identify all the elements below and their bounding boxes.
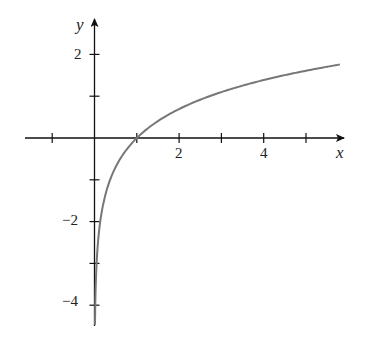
y-tick-label-2: 2 [74, 46, 82, 62]
x-axis-label: x [335, 143, 344, 162]
plot-area: x y 2 4 2 −2 −4 [0, 0, 373, 346]
y-tick-label-m4: −4 [62, 293, 78, 309]
y-tick-label-m2: −2 [62, 212, 78, 228]
x-tick-label-4: 4 [260, 145, 268, 161]
x-tick-label-2: 2 [175, 145, 183, 161]
ln-curve [95, 65, 340, 325]
y-axis-label: y [74, 15, 84, 34]
